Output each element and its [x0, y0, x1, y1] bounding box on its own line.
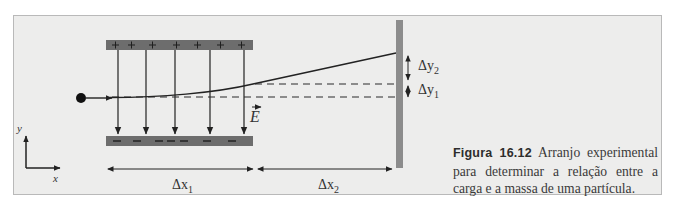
- negative-plate: [106, 136, 253, 146]
- delta-x2-label: Δx2: [318, 177, 339, 195]
- reference-dashed-lines: [112, 84, 396, 97]
- figure-number: Figura 16.12: [453, 146, 532, 160]
- particle-trajectory: [76, 53, 396, 103]
- field-label-e: E: [249, 108, 260, 125]
- field-vector-label: E: [249, 107, 261, 125]
- positive-plate: [106, 40, 253, 50]
- delta-y1-label: Δy1: [418, 82, 439, 100]
- delta-x1-label: Δx1: [172, 177, 193, 195]
- x-axis-label: x: [52, 172, 58, 184]
- particle: [76, 93, 86, 103]
- figure-caption: Figura 16.12 Arranjo experimental para d…: [453, 144, 658, 198]
- detector-screen: [396, 20, 403, 168]
- y-axis-label: y: [16, 122, 22, 134]
- delta-y2-label: Δy2: [418, 58, 439, 76]
- field-lines: [118, 50, 244, 134]
- coordinate-axes: [26, 136, 60, 168]
